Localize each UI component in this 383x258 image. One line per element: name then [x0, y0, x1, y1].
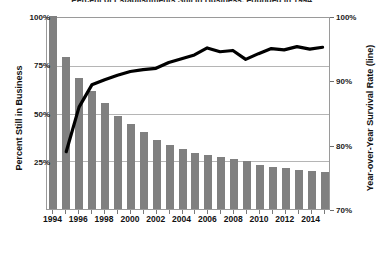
- x-axis-tick-mark: [65, 210, 66, 214]
- y-axis-right-tick-mark: [330, 17, 334, 18]
- y-axis-right-tick-label: 100%: [336, 13, 376, 22]
- plot-area: [46, 17, 330, 210]
- x-axis-tick-mark: [298, 210, 299, 214]
- x-axis-tick-label: 2000: [120, 214, 139, 224]
- y-axis-right-tick-mark: [330, 81, 334, 82]
- y-axis-left-tick-mark: [42, 17, 46, 18]
- x-axis-tick-label: 2002: [146, 214, 165, 224]
- x-axis-tick-label: 1996: [69, 214, 88, 224]
- x-axis-tick-mark: [324, 210, 325, 214]
- y-axis-right-tick-label: 80%: [336, 141, 376, 150]
- x-axis-tick-label: 2010: [250, 214, 269, 224]
- x-axis-tick-mark: [169, 210, 170, 214]
- y-axis-right-title: Year-over-Year Survival Rate (line): [365, 23, 375, 213]
- line-series: [47, 18, 329, 209]
- x-axis-tick-label: 1994: [43, 214, 62, 224]
- x-axis-tick-mark: [272, 210, 273, 214]
- survival-rate-line: [66, 47, 322, 152]
- x-axis-tick-label: 2008: [224, 214, 243, 224]
- y-axis-right-tick-label: 70%: [336, 206, 376, 215]
- x-axis-tick-mark: [117, 210, 118, 214]
- chart-title: Percent of Establishments Still in Busin…: [0, 0, 383, 2]
- y-axis-left-tick-mark: [42, 162, 46, 163]
- x-axis-tick-mark: [194, 210, 195, 214]
- chart-container: Percent of Establishments Still in Busin…: [0, 0, 383, 258]
- x-axis-tick-mark: [91, 210, 92, 214]
- y-axis-right-tick-mark: [330, 146, 334, 147]
- x-axis-tick-mark: [143, 210, 144, 214]
- x-axis-tick-label: 2004: [172, 214, 191, 224]
- x-axis-tick-label: 1998: [95, 214, 114, 224]
- x-axis-tick-label: 2014: [301, 214, 320, 224]
- y-axis-right-tick-mark: [330, 210, 334, 211]
- y-axis-right-tick-label: 90%: [336, 77, 376, 86]
- x-axis-tick-label: 2006: [198, 214, 217, 224]
- y-axis-left-tick-mark: [42, 114, 46, 115]
- y-axis-left-tick-mark: [42, 65, 46, 66]
- x-axis-tick-label: 2012: [275, 214, 294, 224]
- x-axis-tick-mark: [220, 210, 221, 214]
- x-axis-tick-mark: [246, 210, 247, 214]
